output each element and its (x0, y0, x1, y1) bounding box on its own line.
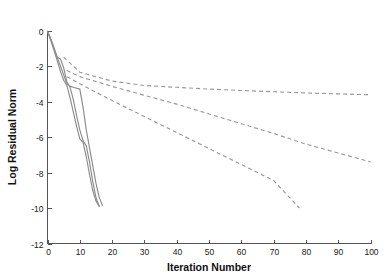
y-tick-label: -2 (36, 62, 44, 72)
series-solid-curve-3 (48, 31, 100, 206)
data-series-group (48, 31, 371, 208)
y-tick-label: -4 (36, 98, 44, 108)
x-tick-label: 0 (46, 247, 51, 257)
x-tick-label: 100 (364, 247, 378, 257)
x-tick-label: 60 (237, 247, 247, 257)
y-tick-label: -6 (36, 133, 44, 143)
axis-lines (48, 31, 371, 244)
chart-figure: 0102030405060708090100 0-2-4-6-8-10-12 I… (0, 0, 389, 279)
series-dashed-asymptote-1 (64, 57, 371, 95)
x-tick-label: 70 (270, 247, 280, 257)
x-tick-label: 10 (76, 247, 86, 257)
series-dashed-asymptote-3 (67, 77, 300, 208)
y-tick-label: -10 (31, 204, 44, 214)
series-solid-curve-2 (48, 31, 100, 206)
x-tick-label: 20 (108, 247, 118, 257)
y-tick-label: -12 (31, 240, 44, 250)
y-tick-label: -8 (36, 169, 44, 179)
x-axis-ticks: 0102030405060708090100 (46, 240, 379, 257)
series-dashed-asymptote-2 (67, 70, 371, 161)
x-tick-label: 40 (173, 247, 183, 257)
y-axis-title: Log Residual Norm (6, 89, 18, 185)
x-tick-label: 30 (140, 247, 150, 257)
y-axis-ticks: 0-2-4-6-8-10-12 (31, 27, 51, 250)
x-tick-label: 50 (205, 247, 215, 257)
x-tick-label: 80 (302, 247, 312, 257)
y-tick-label: 0 (39, 27, 44, 37)
x-tick-label: 90 (334, 247, 344, 257)
x-axis-title: Iteration Number (167, 261, 251, 273)
residual-norm-line-chart: 0102030405060708090100 0-2-4-6-8-10-12 I… (0, 0, 389, 279)
